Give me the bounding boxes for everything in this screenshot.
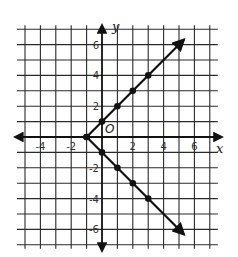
y-tick-label: -2 [89, 163, 99, 174]
y-axis-label: y [111, 19, 120, 34]
data-point [130, 88, 137, 95]
axes [15, 25, 222, 251]
x-tick-label: 6 [191, 141, 197, 152]
y-tick-label: 4 [93, 70, 99, 81]
graph-svg: -4-2246642-2-4-6 y x O [0, 0, 238, 257]
data-point [99, 149, 106, 156]
origin-label: O [105, 122, 114, 136]
x-tick-label: 2 [130, 141, 136, 152]
x-tick-label: -2 [66, 141, 76, 152]
coordinate-graph: -4-2246642-2-4-6 y x O [0, 0, 238, 257]
data-point [83, 134, 90, 141]
x-axis-label: x [216, 141, 224, 156]
data-point [130, 180, 137, 187]
data-point [114, 103, 121, 110]
y-tick-label: -6 [89, 224, 99, 235]
x-tick-label: 4 [160, 141, 166, 152]
y-tick-label: 6 [93, 40, 99, 51]
data-point [145, 72, 152, 79]
x-tick-label: -4 [35, 141, 45, 152]
data-point [114, 165, 121, 172]
y-tick-label: -4 [89, 194, 99, 205]
y-tick-label: 2 [93, 101, 99, 112]
data-point [145, 195, 152, 202]
